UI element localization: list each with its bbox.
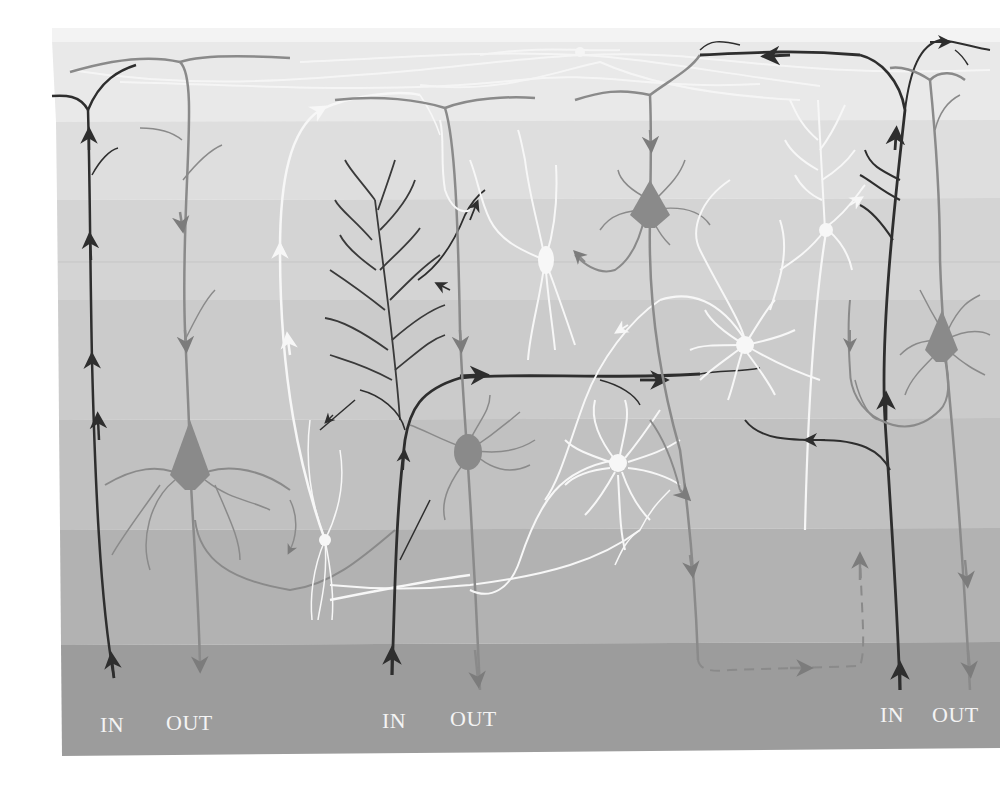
layer-band-6 (60, 528, 1000, 645)
right-column-in-label: IN (880, 702, 904, 728)
cortical-circuit-diagram (0, 0, 1000, 790)
right-column-out-label: OUT (932, 702, 979, 728)
left-column-out-label: OUT (166, 710, 213, 736)
layer-band-7 (61, 642, 1000, 756)
white-bipolar-soma (319, 534, 331, 546)
layer-band-0-top-fade (52, 28, 1000, 42)
white-stellate-soma-right (736, 336, 754, 354)
layer-band-1 (52, 30, 1000, 122)
middle-pyramidal-soma (454, 434, 482, 470)
middle-column-out-label: OUT (450, 706, 497, 732)
layer-band-3 (57, 198, 1000, 300)
white-stellate-soma-center (609, 454, 627, 472)
white-pyramidal-soma-right (819, 223, 833, 237)
white-bipolar-soma-middle (538, 246, 554, 274)
middle-column-in-label: IN (382, 708, 406, 734)
layer-band-2 (56, 120, 1000, 200)
left-column-in-label: IN (100, 712, 124, 738)
